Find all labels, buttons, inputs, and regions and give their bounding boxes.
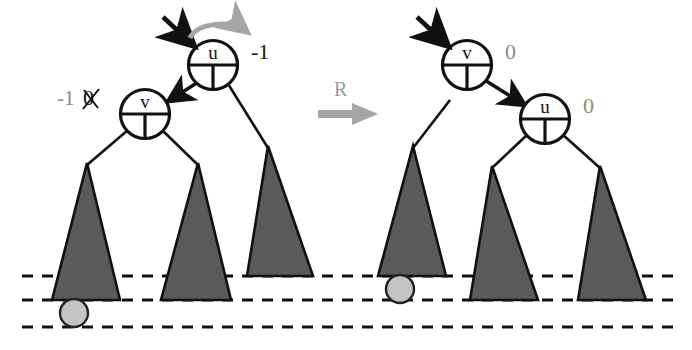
depth-lines-group <box>22 276 676 327</box>
edge-u-to-right-subtree <box>225 79 268 148</box>
diagram-canvas: u v <box>0 0 692 350</box>
right-subtree-of-v <box>161 163 231 300</box>
balance-label-v-new: -1 <box>57 86 75 111</box>
right-subtree-of-u <box>247 146 313 276</box>
edge-u-to-left-subtree-r <box>492 134 528 168</box>
left-subtree-of-v-r <box>378 146 446 276</box>
edge-v-to-left-subtree <box>87 130 128 165</box>
inserted-node-ball-left <box>60 299 88 327</box>
balance-label-v-old-struck: 0 <box>83 85 94 111</box>
child-node-v: v <box>121 90 170 139</box>
balance-label-u-right: 0 <box>583 93 594 119</box>
root-node-u-letter: u <box>208 42 218 63</box>
balance-label-u-left: -1 <box>251 39 269 65</box>
left-subtree-of-v <box>52 163 120 300</box>
edge-u-to-right-subtree-r <box>562 134 600 168</box>
rotation-curve-arrow <box>190 24 246 38</box>
diagram-svg: u v <box>0 0 692 350</box>
edge-v-to-u <box>483 79 523 104</box>
edge-v-to-right-subtree <box>162 130 198 165</box>
rotation-label: R <box>334 78 347 101</box>
child-node-u: u <box>521 95 570 144</box>
left-tree-group: u v <box>52 17 313 327</box>
inserted-node-ball-right <box>386 275 414 303</box>
rotation-arrow <box>318 103 378 125</box>
root-node-v: v <box>443 41 492 90</box>
insertion-arrow-right <box>417 17 446 44</box>
child-node-v-letter: v <box>140 91 150 112</box>
root-node-v-letter: v <box>462 42 472 63</box>
right-subtree-of-u-r <box>578 166 646 300</box>
balance-label-v-right: 0 <box>505 39 516 65</box>
child-node-u-letter: u <box>540 96 550 117</box>
insertion-arrow-left <box>163 17 192 44</box>
root-node-u: u <box>189 41 238 90</box>
edge-v-to-left-subtree-r <box>413 100 450 148</box>
left-subtree-of-u-r <box>470 166 538 300</box>
